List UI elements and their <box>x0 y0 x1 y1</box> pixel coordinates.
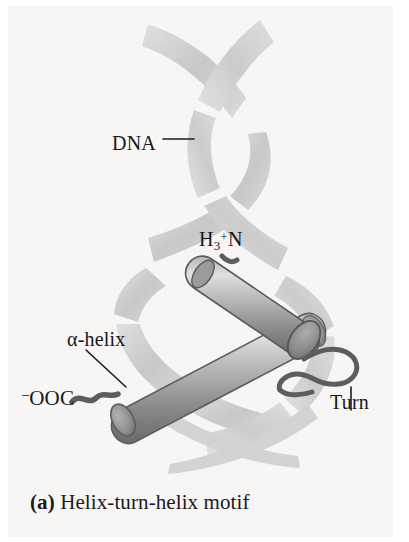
label-n-terminus-h: H <box>199 228 214 250</box>
caption-text: Helix-turn-helix motif <box>60 490 249 514</box>
label-alpha-helix-text: α-helix <box>67 328 126 350</box>
label-c-terminus-text: OOC <box>29 386 74 410</box>
label-dna-text: DNA <box>112 132 156 154</box>
label-n-terminus: H3+N <box>199 228 243 254</box>
label-dna: DNA <box>112 132 156 155</box>
label-n-terminus-n: N <box>228 228 243 250</box>
caption-tag: (a) <box>30 490 55 514</box>
alpha-helix-leader-line <box>86 350 126 387</box>
figure-caption: (a) Helix-turn-helix motif <box>30 490 250 515</box>
label-turn: Turn <box>330 391 369 414</box>
figure-root: DNA H3+N α-helix –OOC Turn (a) Helix-tur… <box>0 0 409 542</box>
illustration-area: DNA H3+N α-helix –OOC Turn <box>8 6 393 476</box>
label-c-terminus: –OOC <box>22 386 74 411</box>
c-terminus-coil <box>72 394 118 402</box>
figure-plate: DNA H3+N α-helix –OOC Turn (a) Helix-tur… <box>8 6 393 537</box>
label-turn-text: Turn <box>330 391 369 413</box>
label-alpha-helix: α-helix <box>67 328 126 351</box>
label-n-terminus-charge: + <box>220 229 228 244</box>
n-terminus-coil <box>222 256 237 262</box>
